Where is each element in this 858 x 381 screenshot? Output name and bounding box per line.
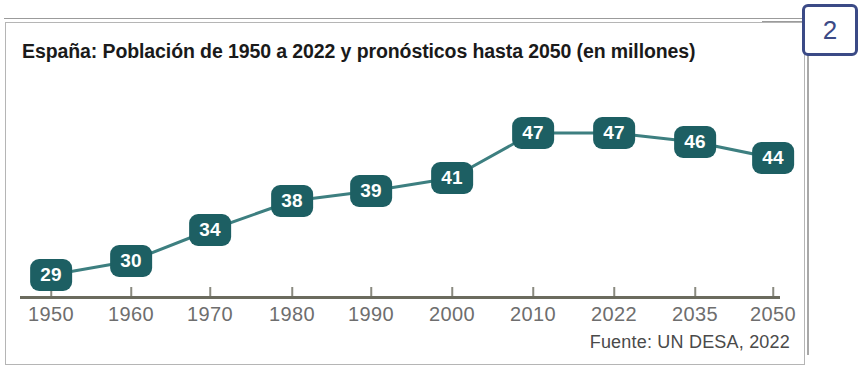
page-number-label: 2 [823,17,837,43]
x-axis-tick-label: 1990 [348,303,394,326]
x-axis-tick [613,287,615,296]
x-axis-tick [451,287,453,296]
series-line [51,133,773,275]
callout-connector-vertical [807,55,809,355]
x-axis-tick [532,287,534,296]
x-axis-tick [291,287,293,296]
x-axis-tick-label: 2000 [429,303,475,326]
page-top-rule [4,18,808,19]
page-number-callout: 2 [802,4,858,56]
x-axis-tick-label: 2035 [672,303,718,326]
data-point-label: 44 [752,142,794,174]
x-axis-tick-label: 2050 [750,303,796,326]
x-axis-tick-label: 1980 [269,303,315,326]
data-point-label: 41 [431,162,473,194]
x-axis-tick-label: 1970 [187,303,233,326]
data-point-label: 47 [512,117,554,149]
x-axis-line [20,296,780,299]
x-axis-tick-label: 2022 [591,303,637,326]
data-point-label: 29 [30,259,72,291]
chart-panel: España: Población de 1950 a 2022 y pronó… [5,22,805,365]
data-point-label: 30 [110,245,152,277]
data-point-label: 39 [350,175,392,207]
x-axis-tick [370,287,372,296]
x-axis-tick-label: 1950 [28,303,74,326]
x-axis-tick-label: 2010 [510,303,556,326]
x-axis-tick [772,287,774,296]
data-point-label: 34 [189,214,231,246]
data-point-label: 47 [593,117,635,149]
data-point-label: 46 [674,126,716,158]
x-axis-tick [694,287,696,296]
x-axis-tick [130,287,132,296]
source-note: Fuente: UN DESA, 2022 [590,332,790,353]
x-axis-tick [209,287,211,296]
data-point-label: 38 [271,185,313,217]
x-axis-tick-label: 1960 [108,303,154,326]
